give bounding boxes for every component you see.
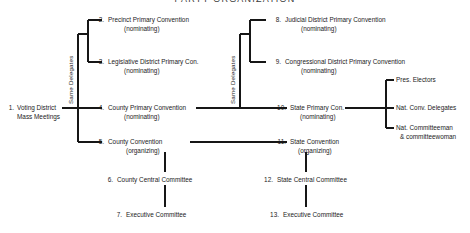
node-5-number: 5. [92, 138, 104, 147]
node-4-sublabel: (nominating) [124, 113, 160, 122]
node-10-number: 10. [271, 104, 286, 113]
bracket-label-left-same-delegates: Same Delegates [67, 55, 74, 104]
node-1-number: 1. [2, 104, 14, 113]
node-1-label-line2: Mass Meetings [17, 113, 60, 122]
node-12-label: State Central Committee [277, 176, 347, 185]
connector-lines [0, 0, 470, 233]
leaf-nat-conv-delegates-label: Nat. Conv. Delegates [396, 104, 456, 113]
node-8-sublabel: (nominating) [301, 25, 337, 34]
node-13-number: 13. [264, 211, 279, 220]
node-11-number: 11. [271, 138, 286, 147]
node-4-label: County Primary Convention [108, 104, 186, 113]
node-11-label: State Convention [290, 138, 339, 147]
node-4-number: 4. [92, 104, 104, 113]
node-5-sublabel: (organizing) [126, 147, 160, 156]
node-12-number: 12. [258, 176, 273, 185]
party-organization-chart: PARTY ORGANIZATION [0, 0, 470, 233]
node-3-label: Legislative District Primary Con. [108, 58, 199, 67]
node-1-label: Voting District [17, 104, 56, 113]
node-6-number: 6. [101, 176, 113, 185]
leaf-pres-electors-label: Pres. Electors [396, 76, 436, 85]
node-5-label: County Convention [108, 138, 162, 147]
node-7-label: Executive Committee [126, 211, 186, 220]
node-2-label: Precinct Primary Convention [108, 16, 189, 25]
node-9-sublabel: (nominating) [301, 67, 337, 76]
node-10-label: State Primary Con. [290, 104, 344, 113]
node-3-number: 3. [92, 58, 104, 67]
node-8-label: Judicial District Primary Convention [285, 16, 386, 25]
node-8-number: 8. [268, 16, 281, 25]
node-2-number: 2. [92, 16, 104, 25]
node-9-number: 9. [268, 58, 281, 67]
leaf-nat-committeeman-label-line2: & committeewoman [400, 133, 456, 142]
node-2-sublabel: (nominating) [124, 25, 160, 34]
node-10-sublabel: (nominating) [300, 113, 336, 122]
node-3-sublabel: (nominating) [124, 67, 160, 76]
bracket-label-right-same-delegates: Same Delegates [229, 55, 236, 104]
node-7-number: 7. [110, 211, 122, 220]
node-9-label: Congressional District Primary Conventio… [285, 58, 405, 67]
node-13-label: Executive Committee [283, 211, 343, 220]
node-6-label: County Central Committee [117, 176, 192, 185]
node-11-sublabel: (organizing) [298, 147, 332, 156]
leaf-nat-committeeman-label: Nat. Committeeman [396, 124, 453, 133]
